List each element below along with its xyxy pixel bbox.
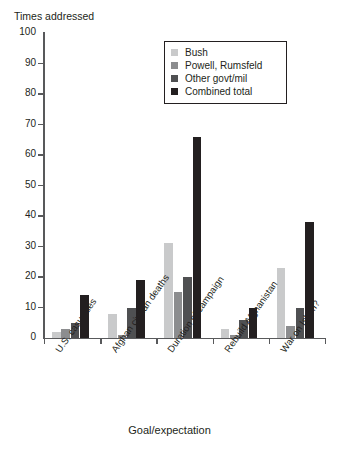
legend-item: Combined total: [171, 85, 280, 98]
y-tick-mark: [38, 215, 43, 217]
y-tick-label: 60: [25, 148, 36, 159]
legend-label: Powell, Rumsfeld: [185, 59, 262, 72]
bar-group: [44, 33, 100, 338]
y-tick-mark: [38, 154, 43, 156]
y-tick-label: 20: [25, 270, 36, 281]
x-tick-mark: [44, 338, 45, 344]
y-tick-mark: [38, 93, 43, 95]
y-tick-label: 10: [25, 301, 36, 312]
y-tick-label: 50: [25, 179, 36, 190]
legend-item: Other govt/mil: [171, 72, 280, 85]
bar-chart: Times addressed 0102030405060708090100 U…: [0, 0, 339, 452]
legend-label: Bush: [185, 46, 208, 59]
legend-swatch-icon: [171, 49, 178, 56]
x-tick-mark: [100, 338, 101, 344]
x-tick-mark: [156, 338, 157, 344]
legend-swatch-icon: [171, 75, 178, 82]
y-tick-mark: [38, 307, 43, 309]
y-tick-label: 70: [25, 118, 36, 129]
y-tick-label: 100: [19, 26, 36, 37]
bar: [164, 243, 173, 338]
bar: [221, 329, 230, 338]
y-tick-mark: [38, 246, 43, 248]
y-tick-label: 40: [25, 209, 36, 220]
legend-swatch-icon: [171, 62, 178, 69]
y-tick-label: 90: [25, 57, 36, 68]
x-tick-mark: [269, 338, 270, 344]
legend-item: Powell, Rumsfeld: [171, 59, 280, 72]
y-tick-mark: [38, 63, 43, 65]
x-tick-mark: [325, 338, 326, 344]
bar: [277, 268, 286, 338]
y-tick-mark: [38, 124, 43, 126]
legend-item: Bush: [171, 46, 280, 59]
x-tick-mark: [213, 338, 214, 344]
legend-label: Combined total: [185, 85, 252, 98]
legend-swatch-icon: [171, 88, 178, 95]
x-axis-title: Goal/expectation: [0, 424, 339, 436]
legend: BushPowell, RumsfeldOther govt/milCombin…: [164, 41, 287, 104]
bar: [108, 314, 117, 338]
y-tick-mark: [38, 185, 43, 187]
y-tick-label: 80: [25, 87, 36, 98]
y-tick-mark: [38, 276, 43, 278]
y-tick-label: 0: [30, 331, 36, 342]
legend-label: Other govt/mil: [185, 72, 247, 85]
y-axis-title: Times addressed: [14, 10, 94, 22]
y-tick-label: 30: [25, 240, 36, 251]
